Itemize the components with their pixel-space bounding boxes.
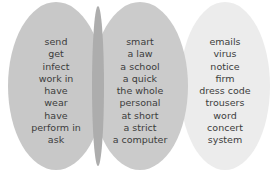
word: dress code	[180, 85, 270, 97]
word: get	[11, 48, 101, 60]
word: emails	[180, 36, 270, 48]
word: at short	[95, 110, 185, 122]
word: a strict	[95, 122, 185, 134]
word: the whole	[95, 85, 185, 97]
word: firm	[180, 73, 270, 85]
word: work in	[11, 73, 101, 85]
word: system	[180, 134, 270, 146]
word: perform in	[11, 122, 101, 134]
word: notice	[180, 61, 270, 73]
word: ask	[11, 134, 101, 146]
word-column-right: emails virus notice firm dress code trou…	[180, 36, 270, 147]
word: smart	[95, 36, 185, 48]
word: trousers	[180, 97, 270, 109]
word: have	[11, 110, 101, 122]
word: personal	[95, 97, 185, 109]
word: concert	[180, 122, 270, 134]
word: wear	[11, 97, 101, 109]
word: virus	[180, 48, 270, 60]
word: a quick	[95, 73, 185, 85]
word: word	[180, 110, 270, 122]
word-column-left: send get infect work in have wear have p…	[11, 36, 101, 147]
word: infect	[11, 61, 101, 73]
word-column-middle: smart a law a school a quick the whole p…	[95, 36, 185, 147]
word: a computer	[95, 134, 185, 146]
word: have	[11, 85, 101, 97]
word: a school	[95, 61, 185, 73]
word: a law	[95, 48, 185, 60]
word: send	[11, 36, 101, 48]
